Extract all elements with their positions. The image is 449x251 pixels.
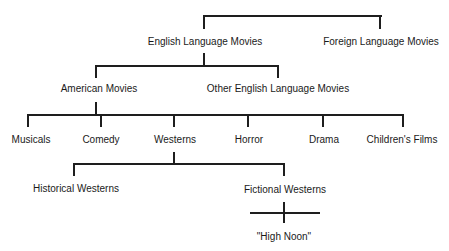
node-westerns: Westerns <box>154 134 196 146</box>
bracket-drop-drama <box>322 114 324 127</box>
bracket-english-right-drop <box>277 65 279 78</box>
node-horror: Horror <box>235 134 263 146</box>
bracket-root-left-drop <box>203 15 205 29</box>
bracket-drop-historical <box>73 163 75 176</box>
bracket-drop-fictional <box>283 163 285 176</box>
bracket-root-horizontal <box>204 15 382 17</box>
bracket-english-left-drop <box>95 65 97 78</box>
node-historical-westerns: Historical Westerns <box>33 183 119 195</box>
node-childrens-films: Children's Films <box>367 134 438 146</box>
node-american-movies: American Movies <box>61 83 138 95</box>
bracket-american-horizontal <box>27 114 404 116</box>
node-fictional-westerns: Fictional Westerns <box>244 184 326 196</box>
node-musicals: Musicals <box>12 134 51 146</box>
bracket-drop-westerns <box>173 114 175 127</box>
bracket-drop-childrens <box>402 114 404 127</box>
node-foreign-language-movies: Foreign Language Movies <box>323 36 439 48</box>
bracket-english-horizontal <box>96 65 279 67</box>
bracket-drop-musicals <box>27 114 29 127</box>
node-other-english-language-movies: Other English Language Movies <box>207 83 349 95</box>
bracket-root-right-drop <box>379 15 381 29</box>
node-high-noon: "High Noon" <box>257 231 311 243</box>
node-english-language-movies: English Language Movies <box>148 36 263 48</box>
bracket-drop-comedy <box>100 114 102 127</box>
cross-horizontal <box>250 212 320 214</box>
bracket-westerns-horizontal <box>73 163 285 165</box>
node-comedy: Comedy <box>82 134 119 146</box>
bracket-drop-horror <box>247 114 249 127</box>
node-drama: Drama <box>309 134 339 146</box>
